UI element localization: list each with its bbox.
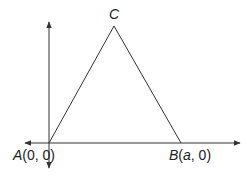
side-cb (114, 26, 181, 143)
vertex-b-var: a (183, 147, 191, 163)
vertex-a-coords: (0, 0) (22, 147, 55, 163)
vertex-label-b: B(a, 0) (169, 147, 211, 163)
vertex-b-name: B (169, 147, 178, 163)
triangle-diagram: C A(0, 0) B(a, 0) (0, 0, 247, 177)
side-ac (49, 26, 114, 143)
vertex-b-rest: , 0) (191, 147, 211, 163)
vertex-label-c: C (109, 6, 120, 22)
vertex-a-name: A (12, 147, 22, 163)
vertex-label-a: A(0, 0) (12, 147, 55, 163)
